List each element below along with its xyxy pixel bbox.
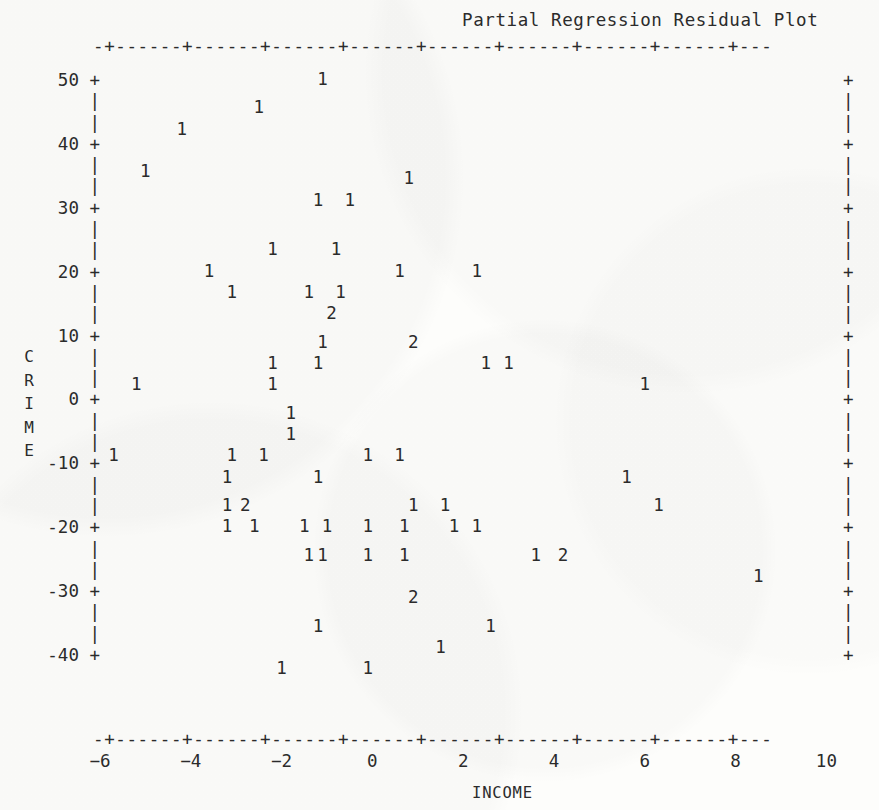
data-point: 1 [408, 497, 419, 515]
data-point: 1 [331, 242, 342, 260]
data-point: 1 [267, 242, 278, 260]
data-point: 1 [276, 661, 287, 679]
y-axis-left: 50 + | | 40 + | | 30 + | | 20 + | | 10 +… [40, 70, 100, 666]
data-point: 1 [299, 519, 310, 537]
x-tick-label-0: 0 [367, 751, 378, 771]
paper-texture [0, 0, 879, 810]
data-point: 1 [222, 519, 233, 537]
data-point: 1 [399, 547, 410, 565]
data-point: 1 [313, 618, 324, 636]
data-point: 1 [435, 639, 446, 657]
data-point: 1 [304, 284, 315, 302]
x-tick-label-8: 8 [730, 751, 741, 771]
x-tick-label--2: −2 [271, 751, 292, 771]
x-axis-title: INCOME [0, 784, 879, 802]
data-point: 1 [335, 284, 346, 302]
data-point: 1 [394, 448, 405, 466]
data-point: 2 [240, 497, 251, 515]
data-point: 1 [403, 171, 414, 189]
x-tick-label--6: −6 [89, 751, 110, 771]
data-point: 1 [254, 100, 265, 118]
data-point: 1 [394, 263, 405, 281]
y-axis-title-char-0: C [21, 345, 37, 369]
x-axis-title-text: INCOME [472, 784, 533, 802]
data-point: 1 [267, 355, 278, 373]
data-point: 1 [313, 469, 324, 487]
data-point: 1 [503, 355, 514, 373]
y-axis-title-char-4: E [21, 439, 37, 463]
x-tick-label-4: 4 [549, 751, 560, 771]
data-point: 1 [226, 448, 237, 466]
data-point: 1 [304, 547, 315, 565]
y-axis-title-char-1: R [21, 369, 37, 393]
data-point: 1 [313, 192, 324, 210]
data-point: 1 [317, 334, 328, 352]
x-tick-label-6: 6 [640, 751, 651, 771]
data-point: 1 [621, 469, 632, 487]
data-point: 1 [531, 547, 542, 565]
data-point: 1 [249, 519, 260, 537]
data-point: 1 [481, 355, 492, 373]
data-point: 1 [313, 355, 324, 373]
data-point: 2 [408, 334, 419, 352]
data-point: 1 [226, 284, 237, 302]
data-point: 1 [140, 164, 151, 182]
page-title: Partial Regression Residual Plot [462, 10, 818, 30]
data-point: 1 [204, 263, 215, 281]
data-point: 2 [326, 306, 337, 324]
x-tick-label-2: 2 [458, 751, 469, 771]
data-point: 1 [653, 497, 664, 515]
data-point: 1 [440, 497, 451, 515]
y-axis-title: CRIME [21, 345, 37, 463]
data-point: 1 [176, 121, 187, 139]
data-point: 1 [131, 377, 142, 395]
data-point: 1 [640, 377, 651, 395]
data-point: 1 [399, 519, 410, 537]
top-axis-rule: -+------+------+------+------+------+---… [93, 38, 772, 56]
data-point: 1 [285, 405, 296, 423]
data-point: 1 [222, 469, 233, 487]
plot-page: Partial Regression Residual Plot -+-----… [0, 0, 879, 810]
y-axis-title-char-2: I [21, 392, 37, 416]
x-axis-tick-labels: −6−4−20246810 [0, 751, 879, 773]
data-point: 1 [363, 661, 374, 679]
data-point: 1 [322, 519, 333, 537]
data-point: 1 [485, 618, 496, 636]
data-point: 1 [472, 519, 483, 537]
data-point: 2 [558, 547, 569, 565]
y-axis-right: + | | + | | + | | + | | + | | + | | + | … [843, 70, 859, 666]
data-point: 1 [267, 377, 278, 395]
data-point: 1 [363, 547, 374, 565]
data-point: 1 [285, 426, 296, 444]
bottom-axis-rule: -+------+------+------+------+------+---… [93, 731, 772, 749]
data-point: 1 [753, 568, 764, 586]
x-tick-label--4: −4 [180, 751, 201, 771]
x-tick-label-10: 10 [816, 751, 837, 771]
data-point: 1 [363, 519, 374, 537]
data-point: 1 [222, 497, 233, 515]
data-point: 1 [472, 263, 483, 281]
data-point: 1 [363, 448, 374, 466]
data-point: 1 [108, 448, 119, 466]
y-axis-title-char-3: M [21, 416, 37, 440]
data-point: 1 [449, 519, 460, 537]
data-point: 1 [344, 192, 355, 210]
data-point: 1 [317, 547, 328, 565]
data-point: 1 [317, 71, 328, 89]
data-point: 1 [258, 448, 269, 466]
data-point: 2 [408, 590, 419, 608]
